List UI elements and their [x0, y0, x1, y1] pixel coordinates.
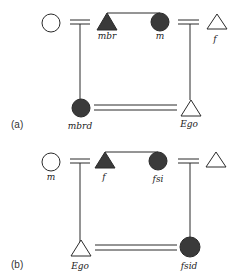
node-label: m	[156, 31, 165, 41]
node-label: mbr	[98, 31, 117, 41]
male-filled-triangle-icon	[97, 13, 117, 30]
node-label: m	[47, 172, 56, 182]
panel-a	[42, 13, 227, 117]
male-filled-triangle-icon	[95, 152, 115, 168]
node-label: f	[101, 172, 107, 182]
female-filled-circle-icon	[149, 152, 167, 170]
ego-open-triangle-icon	[71, 240, 91, 256]
panel-label: (a)	[11, 119, 23, 130]
node-label: fsid	[180, 261, 198, 271]
panel-b	[42, 152, 226, 257]
ego-open-triangle-icon	[181, 100, 201, 116]
female-filled-circle-icon	[180, 237, 200, 257]
node-label: f	[212, 34, 218, 44]
panel-label: (b)	[11, 259, 23, 270]
node-label: fsi	[152, 174, 164, 184]
male-open-triangle-icon	[207, 14, 227, 29]
female-open-circle-icon	[42, 14, 60, 32]
node-label: Ego	[70, 261, 89, 271]
kinship-diagram: mbr m f mbrd Ego (a) m f fsi Ego fs	[0, 0, 237, 280]
node-label: Ego	[179, 119, 198, 129]
node-label: mbrd	[68, 121, 93, 131]
female-filled-circle-icon	[151, 13, 169, 31]
male-open-triangle-icon	[206, 152, 226, 167]
female-open-circle-icon	[42, 153, 60, 171]
female-filled-circle-icon	[72, 99, 90, 117]
